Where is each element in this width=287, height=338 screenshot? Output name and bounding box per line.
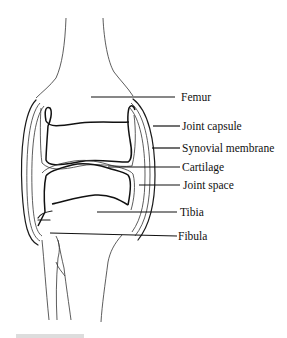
femur-cartilage-inner bbox=[40, 108, 135, 169]
femur-outline-right bbox=[103, 18, 133, 96]
label-tibia: Tibia bbox=[180, 206, 204, 218]
label-fibula: Fibula bbox=[178, 230, 207, 242]
tibia-outline-left bbox=[56, 236, 59, 320]
femur-cartilage bbox=[45, 106, 135, 165]
synovial-membrane-right bbox=[131, 103, 150, 236]
label-cartilage: Cartilage bbox=[182, 161, 224, 174]
tibia-cartilage-inner bbox=[38, 176, 46, 226]
tibia-outline-right bbox=[101, 235, 122, 322]
label-joint-space: Joint space bbox=[183, 179, 234, 192]
label-joint-capsule: Joint capsule bbox=[182, 120, 242, 133]
femur-condyle-line bbox=[46, 121, 129, 126]
fibula-head bbox=[38, 211, 52, 220]
fibula-outline-left bbox=[42, 240, 49, 320]
fibula-outline-right bbox=[58, 240, 71, 320]
label-synovial-membrane: Synovial membrane bbox=[182, 142, 274, 155]
tibia-plateau bbox=[52, 195, 128, 205]
label-femur: Femur bbox=[181, 91, 211, 103]
knee-joint-diagram: Femur Joint capsule Synovial membrane Ca… bbox=[0, 0, 287, 338]
caption-fragment bbox=[16, 334, 84, 338]
fibula-leader bbox=[50, 233, 177, 236]
femur-outline-left bbox=[36, 18, 66, 98]
capsule-inner-right bbox=[129, 107, 145, 232]
